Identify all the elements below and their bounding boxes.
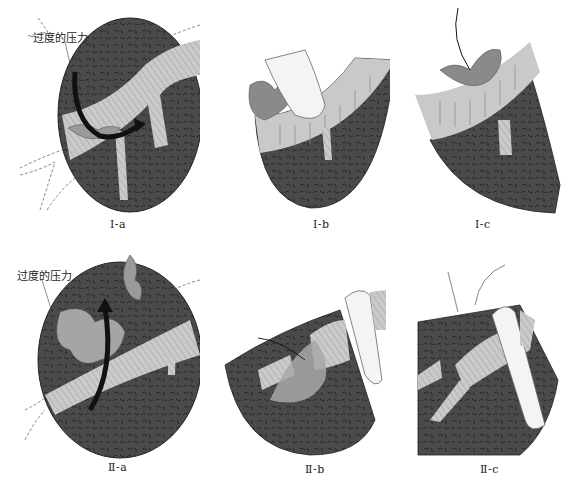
panel-label: Ⅱ-a — [108, 461, 127, 474]
panel-I-b: Ⅰ-b — [200, 0, 390, 240]
panel-label: Ⅰ-c — [475, 218, 491, 231]
annotation-excessive-pressure: 过度的压力 — [17, 267, 72, 283]
illustration-II-b — [200, 250, 390, 481]
illustration-I-b — [200, 0, 390, 240]
panel-label: Ⅱ-c — [480, 463, 499, 476]
annotation-leader — [42, 280, 52, 312]
panel-I-c: Ⅰ-c — [380, 0, 574, 240]
vessel-branch — [168, 335, 176, 375]
panel-label: Ⅰ-b — [313, 218, 330, 231]
illustration-I-c — [380, 0, 574, 240]
vessel-branch — [498, 120, 512, 155]
illustration-II-c — [380, 250, 574, 481]
panel-II-b: Ⅱ-b — [200, 250, 390, 481]
panel-II-c: Ⅱ-c — [380, 250, 574, 481]
tissue-block — [418, 305, 558, 455]
panel-label: Ⅰ-a — [110, 218, 126, 231]
illustration-I-a — [0, 0, 200, 240]
annotation-excessive-pressure: 过度的压力 — [33, 29, 88, 45]
panel-label: Ⅱ-b — [305, 463, 325, 476]
illustration-II-a — [0, 250, 200, 481]
panel-II-a: 过度的压力 Ⅱ-a — [0, 250, 200, 481]
suture-thread-right — [475, 265, 505, 305]
suture-thread — [456, 8, 470, 70]
suture-thread-left — [448, 272, 458, 312]
panel-I-a: 过度的压力 Ⅰ-a — [0, 0, 200, 240]
